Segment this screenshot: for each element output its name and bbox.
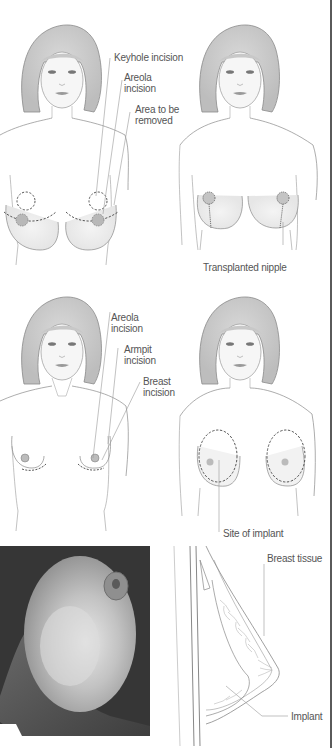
implant-photo	[0, 546, 150, 736]
label-area-to-be-removed: Area to be removed	[135, 104, 179, 126]
label-site-of-implant: Site of implant	[223, 528, 283, 539]
label-keyhole-incision: Keyhole incision	[114, 52, 183, 63]
implant-cross-section-diagram	[174, 546, 288, 746]
label-areola-incision-top-line1: Areola	[124, 72, 156, 83]
label-areola-incision-mid-line2: incision	[111, 323, 143, 334]
label-armpit-incision: Armpit incision	[124, 344, 156, 366]
label-areola-incision-mid: Areola incision	[111, 312, 143, 334]
label-armpit-incision-line2: incision	[124, 355, 156, 366]
figure-reduction-before	[0, 25, 128, 265]
label-breast-incision-line2: incision	[143, 387, 175, 398]
label-breast-incision-line1: Breast	[143, 376, 175, 387]
label-breast-incision: Breast incision	[143, 376, 175, 398]
callout-lines	[93, 58, 283, 532]
figure-augmentation-implant-site	[179, 297, 315, 516]
label-areola-incision-top-line2: incision	[124, 83, 156, 94]
label-implant: Implant	[291, 711, 322, 722]
label-areola-incision-top: Areola incision	[124, 72, 156, 94]
figure-augmentation-incisions	[0, 297, 128, 531]
label-areola-incision-mid-line1: Areola	[111, 312, 143, 323]
label-transplanted-nipple: Transplanted nipple	[203, 262, 287, 273]
label-area-removed-line2: removed	[135, 115, 179, 126]
label-breast-tissue: Breast tissue	[267, 553, 322, 564]
figure-reduction-after	[179, 25, 317, 250]
label-armpit-incision-line1: Armpit	[124, 344, 156, 355]
label-area-removed-line1: Area to be	[135, 104, 179, 115]
implant-photo-art	[0, 546, 150, 736]
